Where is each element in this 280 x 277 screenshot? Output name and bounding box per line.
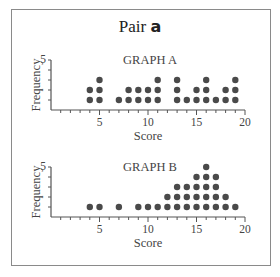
data-dot [184,194,190,200]
y-axis-label: Frequency [29,165,43,219]
data-dot [174,77,180,83]
data-dot [145,87,151,93]
data-dot [193,97,199,103]
data-dot [203,184,209,190]
y-axis-label: Frequency [29,58,43,112]
data-dot [213,204,219,210]
data-dot [87,204,93,210]
data-dot [232,204,238,210]
data-dot [96,97,102,103]
data-dot [174,204,180,210]
data-dot [164,194,170,200]
data-dot [203,194,209,200]
data-dot [222,87,228,93]
x-tick-label: 10 [142,223,154,235]
data-dot [232,77,238,83]
data-dot [174,97,180,103]
data-dot [203,204,209,210]
data-dot [174,87,180,93]
graph-title: GRAPH A [123,53,177,67]
data-dot [222,97,228,103]
data-dot [203,97,209,103]
graph-title: GRAPH B [123,160,177,174]
data-dot [145,204,151,210]
data-dot [203,77,209,83]
dot-plot-a: 55101520GRAPH AScoreFrequency [29,53,251,143]
data-dot [125,87,131,93]
data-dot [135,204,141,210]
data-dot [96,87,102,93]
dot-plots: 55101520GRAPH AScoreFrequency55101520GRA… [0,0,280,277]
data-dot [155,87,161,93]
data-dot [222,194,228,200]
x-tick-label: 20 [239,223,251,235]
data-dot [232,97,238,103]
data-dot [135,97,141,103]
data-dot [213,174,219,180]
data-dot [193,204,199,210]
x-tick-label: 15 [191,223,203,235]
data-dot [203,87,209,93]
data-dot [155,77,161,83]
data-dot [193,194,199,200]
data-dot [164,204,170,210]
data-dot [145,97,151,103]
data-dot [155,204,161,210]
data-dot [174,184,180,190]
data-dot [116,204,122,210]
dot-plot-b: 55101520GRAPH BScoreFrequency [29,160,251,250]
data-dot [213,194,219,200]
x-tick-label: 20 [239,116,251,128]
x-tick-label: 10 [142,116,154,128]
data-dot [203,174,209,180]
x-tick-label: 5 [97,116,103,128]
data-dot [87,87,93,93]
data-dot [135,87,141,93]
data-dot [222,204,228,210]
x-tick-label: 5 [97,223,103,235]
x-axis-label: Score [134,129,163,143]
data-dot [203,164,209,170]
x-axis-label: Score [134,236,163,250]
data-dot [96,204,102,210]
data-dot [184,97,190,103]
data-dot [193,174,199,180]
data-dot [116,97,122,103]
x-tick-label: 15 [191,116,203,128]
data-dot [184,204,190,210]
data-dot [193,184,199,190]
data-dot [193,87,199,93]
data-dot [184,184,190,190]
data-dot [87,97,93,103]
data-dot [213,184,219,190]
data-dot [96,77,102,83]
data-dot [155,97,161,103]
data-dot [213,97,219,103]
data-dot [232,87,238,93]
data-dot [125,97,131,103]
data-dot [174,194,180,200]
